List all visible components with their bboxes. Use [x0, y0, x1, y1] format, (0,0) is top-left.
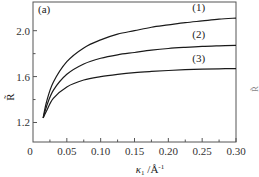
x-tick-label: 0.05: [57, 145, 77, 157]
series-labels: (1)(2)(3): [192, 1, 205, 64]
clipped-adjacent-axis-label: R̃: [250, 86, 259, 92]
x-tick-label: 0: [27, 145, 33, 157]
x-axis-title: κ1 /Å-1: [136, 163, 165, 177]
y-axis-title: R̃: [4, 93, 16, 101]
y-tick-label: 1.2: [16, 116, 30, 128]
x-tick-label: 0.10: [91, 145, 111, 157]
series-curve-3: [43, 69, 236, 118]
series-label-2: (2): [192, 28, 205, 41]
series-label-1: (1): [192, 1, 205, 14]
x-tick-label: 0.25: [193, 145, 213, 157]
y-tick-label: 2.0: [16, 25, 30, 37]
line-chart: 00.050.100.150.200.250.30 1.21.62.0 (1)(…: [0, 0, 259, 177]
panel-label: (a): [38, 3, 51, 16]
data-series: [43, 18, 236, 118]
x-tick-label: 0.20: [159, 145, 179, 157]
y-tick-label: 1.6: [16, 71, 30, 83]
series-curve-1: [43, 18, 236, 118]
series-label-3: (3): [192, 52, 205, 65]
y-axis-ticks: 1.21.62.0: [16, 25, 37, 129]
x-axis-ticks: 00.050.100.150.200.250.30: [27, 138, 246, 157]
x-tick-label: 0.30: [226, 145, 246, 157]
x-tick-label: 0.15: [125, 145, 145, 157]
